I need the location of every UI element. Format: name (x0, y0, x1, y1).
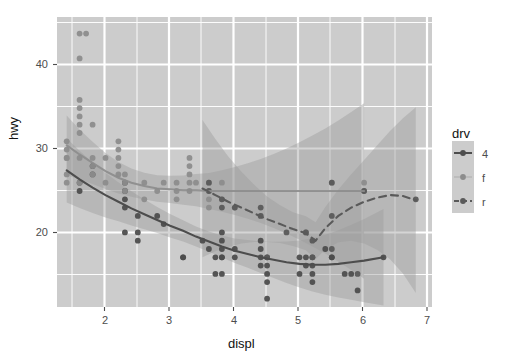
data-point (310, 271, 316, 277)
data-point (348, 271, 354, 277)
data-point (264, 263, 270, 269)
data-point (297, 254, 303, 260)
data-point (77, 56, 83, 62)
data-point (264, 296, 270, 302)
data-point (77, 188, 83, 194)
data-point (361, 180, 367, 186)
data-point (187, 180, 193, 186)
data-point (206, 196, 212, 202)
data-point (83, 31, 89, 37)
legend-key-point-r (460, 198, 466, 204)
legend-label-4: 4 (482, 148, 488, 160)
legend-label-r: r (482, 196, 486, 208)
data-point (219, 238, 225, 244)
data-point (219, 271, 225, 277)
data-point (187, 155, 193, 161)
data-point (135, 213, 141, 219)
data-point (77, 130, 83, 136)
data-point (213, 271, 219, 277)
data-point (258, 238, 264, 244)
data-point (135, 230, 141, 236)
data-point (206, 205, 212, 211)
y-tick-label-40: 40 (26, 58, 48, 70)
data-point (355, 271, 361, 277)
legend-key-point-4 (460, 150, 466, 156)
y-axis-title: hwy (6, 117, 21, 140)
data-point (154, 213, 160, 219)
x-tick-label-5: 5 (287, 314, 309, 326)
legend-keys (452, 141, 474, 213)
data-point (232, 254, 238, 260)
data-point (122, 230, 128, 236)
data-point (258, 246, 264, 252)
data-point (264, 271, 270, 277)
data-point (310, 279, 316, 285)
data-point (122, 188, 128, 194)
y-tick-label-20: 20 (26, 226, 48, 238)
data-point (77, 122, 83, 128)
data-point (322, 246, 328, 252)
data-point (258, 263, 264, 269)
data-point (64, 180, 70, 186)
data-point (206, 246, 212, 252)
data-point (310, 254, 316, 260)
data-point (329, 180, 335, 186)
data-point (264, 279, 270, 285)
data-point (103, 155, 109, 161)
data-point (329, 246, 335, 252)
data-point (77, 105, 83, 111)
data-point (219, 180, 225, 186)
data-point (342, 271, 348, 277)
data-point (122, 172, 128, 178)
data-point (193, 180, 199, 186)
data-point (141, 196, 147, 202)
data-point (174, 180, 180, 186)
data-point (161, 180, 167, 186)
x-tick-label-4: 4 (223, 314, 245, 326)
data-point (64, 155, 70, 161)
x-tick-label-7: 7 (416, 314, 438, 326)
data-point (206, 180, 212, 186)
data-point (103, 180, 109, 186)
data-point (258, 205, 264, 211)
data-point (116, 155, 122, 161)
data-point (284, 230, 290, 236)
chart-container: hwy displ drv 40 30 20 2 3 4 5 6 7 4 f r (0, 0, 507, 362)
data-point (90, 172, 96, 178)
data-point (90, 155, 96, 161)
legend-title: drv (452, 126, 470, 141)
legend-key-point-f (460, 174, 466, 180)
x-axis-title: displ (228, 336, 255, 351)
data-point (64, 138, 70, 144)
data-point (77, 114, 83, 120)
data-point (77, 97, 83, 103)
x-tick-label-2: 2 (94, 314, 116, 326)
data-point (329, 213, 335, 219)
data-point (116, 138, 122, 144)
data-point (187, 163, 193, 169)
data-point (77, 31, 83, 37)
data-point (329, 254, 335, 260)
data-point (122, 196, 128, 202)
data-point (219, 254, 225, 260)
data-point (90, 122, 96, 128)
data-point (135, 238, 141, 244)
chart-canvas (0, 0, 507, 362)
data-point (219, 230, 225, 236)
data-point (174, 196, 180, 202)
data-point (116, 163, 122, 169)
data-point (219, 205, 225, 211)
data-point (187, 172, 193, 178)
x-tick-label-6: 6 (352, 314, 374, 326)
data-point (180, 254, 186, 260)
data-point (303, 254, 309, 260)
data-point (116, 147, 122, 153)
legend-label-f: f (482, 172, 485, 184)
data-point (297, 271, 303, 277)
data-point (355, 288, 361, 294)
data-point (213, 254, 219, 260)
y-tick-label-30: 30 (26, 142, 48, 154)
x-tick-label-3: 3 (158, 314, 180, 326)
